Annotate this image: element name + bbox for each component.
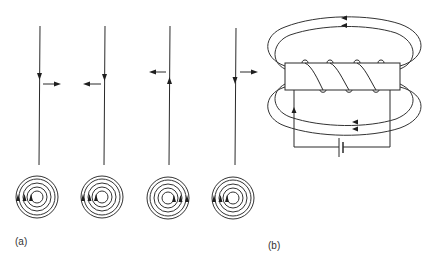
force-arrow-left-icon [149, 70, 156, 75]
wire-1 [37, 26, 61, 165]
field-arrow-up-icon [29, 194, 33, 201]
field-arrow-left-icon [341, 23, 347, 28]
field-arrow-left-icon [352, 120, 358, 125]
wire-line [169, 26, 170, 165]
wire-line [235, 28, 236, 165]
field-arrow-up-icon [172, 195, 176, 202]
field-rings-1 [16, 176, 58, 218]
wire-line [39, 26, 40, 165]
figure-canvas [0, 0, 432, 261]
current-arrow-down-icon [233, 77, 238, 84]
current-arrow-down-icon [102, 74, 107, 81]
force-arrow-right-icon [251, 70, 258, 75]
panel-b-label: (b) [268, 240, 280, 251]
current-arrow-up-icon [292, 107, 297, 113]
force-arrow-right-icon [54, 82, 61, 87]
wire-3 [149, 26, 172, 165]
solenoid-core [285, 63, 400, 90]
wire-line [104, 26, 105, 165]
panel-a [16, 26, 258, 219]
field-arrow-up-icon [94, 194, 98, 201]
field-rings-4 [212, 177, 254, 219]
field-arrow-left-icon [352, 127, 358, 132]
field-loop-bottom-outer [268, 87, 421, 135]
field-rings-2 [81, 176, 123, 218]
panel-a-label: (a) [15, 236, 27, 247]
current-arrow-up-icon [167, 77, 172, 84]
wire-2 [83, 26, 107, 165]
field-arrow-up-icon [225, 195, 229, 202]
current-arrow-down-icon [37, 73, 42, 80]
field-arrow-left-icon [341, 16, 347, 21]
force-arrow-left-icon [83, 82, 90, 87]
wire-4 [233, 28, 259, 165]
field-rings-3 [147, 177, 189, 219]
panel-b [268, 16, 421, 158]
